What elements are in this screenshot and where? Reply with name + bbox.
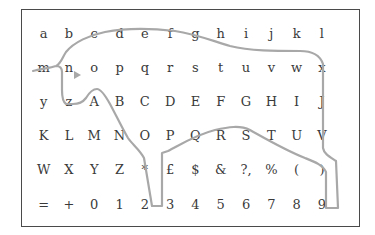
grid-cell[interactable]: q xyxy=(132,50,157,84)
grid-cell[interactable]: p xyxy=(107,50,132,84)
grid-cell[interactable]: Y xyxy=(82,153,107,187)
grid-cell[interactable]: X xyxy=(56,153,81,187)
grid-cell[interactable]: Q xyxy=(183,119,208,153)
grid-cell[interactable]: 5 xyxy=(208,187,233,221)
grid-cell[interactable]: g xyxy=(183,16,208,50)
grid-cell[interactable]: 4 xyxy=(183,187,208,221)
grid-cell[interactable]: k xyxy=(284,16,309,50)
grid-cell[interactable]: 0 xyxy=(82,187,107,221)
grid-cell[interactable]: z xyxy=(56,84,81,118)
grid-cell[interactable]: B xyxy=(107,84,132,118)
grid-cell[interactable]: £ xyxy=(157,153,182,187)
grid-cell[interactable]: G xyxy=(233,84,258,118)
grid-cell[interactable]: i xyxy=(233,16,258,50)
grid-cell[interactable]: O xyxy=(132,119,157,153)
grid-cell[interactable]: * xyxy=(132,153,157,187)
grid-cell[interactable]: a xyxy=(31,16,56,50)
grid-cell[interactable]: C xyxy=(132,84,157,118)
grid-cell[interactable]: s xyxy=(183,50,208,84)
grid-cell[interactable]: R xyxy=(208,119,233,153)
grid-cell[interactable]: S xyxy=(233,119,258,153)
grid-cell[interactable]: P xyxy=(157,119,182,153)
grid-cell[interactable]: f xyxy=(157,16,182,50)
grid-cell[interactable]: y xyxy=(31,84,56,118)
grid-cell[interactable]: H xyxy=(259,84,284,118)
grid-cell[interactable]: m xyxy=(31,50,56,84)
grid-cell[interactable]: w xyxy=(284,50,309,84)
grid-cell[interactable]: L xyxy=(56,119,81,153)
grid-cell[interactable]: % xyxy=(259,153,284,187)
grid-cell[interactable]: e xyxy=(132,16,157,50)
grid-cell[interactable]: Z xyxy=(107,153,132,187)
grid-cell[interactable]: 1 xyxy=(107,187,132,221)
grid-cell[interactable]: h xyxy=(208,16,233,50)
grid-cell[interactable]: W xyxy=(31,153,56,187)
grid-cell[interactable]: x xyxy=(309,50,334,84)
grid-cell[interactable]: $ xyxy=(183,153,208,187)
grid-cell[interactable]: v xyxy=(259,50,284,84)
grid-cell[interactable]: J xyxy=(309,84,334,118)
grid-cell[interactable]: j xyxy=(259,16,284,50)
grid-cell[interactable]: r xyxy=(157,50,182,84)
grid-cell[interactable]: + xyxy=(56,187,81,221)
grid-cell[interactable]: ?, xyxy=(233,153,258,187)
grid-cell[interactable]: A xyxy=(82,84,107,118)
grid-cell[interactable]: T xyxy=(259,119,284,153)
grid-cell[interactable]: V xyxy=(309,119,334,153)
grid-cell[interactable]: M xyxy=(82,119,107,153)
grid-cell[interactable]: b xyxy=(56,16,81,50)
grid-cell[interactable]: & xyxy=(208,153,233,187)
grid-cell[interactable]: 2 xyxy=(132,187,157,221)
grid-cell[interactable]: 9 xyxy=(309,187,334,221)
grid-cell[interactable]: I xyxy=(284,84,309,118)
grid-cell[interactable]: E xyxy=(183,84,208,118)
grid-cell[interactable]: o xyxy=(82,50,107,84)
letter-grid: a b c d e f g h i j k l m n o p q r s t … xyxy=(31,16,359,222)
grid-cell[interactable]: 8 xyxy=(284,187,309,221)
grid-cell[interactable]: = xyxy=(31,187,56,221)
grid-cell[interactable]: 6 xyxy=(233,187,258,221)
grid-cell[interactable]: t xyxy=(208,50,233,84)
grid-cell[interactable]: 3 xyxy=(157,187,182,221)
grid-cell[interactable]: l xyxy=(309,16,334,50)
grid-cell[interactable]: ) xyxy=(309,153,334,187)
grid-cell[interactable]: F xyxy=(208,84,233,118)
grid-cell[interactable]: 7 xyxy=(259,187,284,221)
grid-cell[interactable]: d xyxy=(107,16,132,50)
grid-cell[interactable]: N xyxy=(107,119,132,153)
grid-cell[interactable]: K xyxy=(31,119,56,153)
grid-cell[interactable]: c xyxy=(82,16,107,50)
grid-cell[interactable]: U xyxy=(284,119,309,153)
grid-cell[interactable]: n xyxy=(56,50,81,84)
grid-cell[interactable]: D xyxy=(157,84,182,118)
grid-cell[interactable]: u xyxy=(233,50,258,84)
grid-cell[interactable]: ( xyxy=(284,153,309,187)
